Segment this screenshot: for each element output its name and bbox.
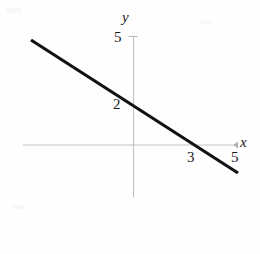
y-axis-label: y: [122, 10, 129, 25]
plotted-line: [31, 40, 238, 173]
x-intercept-label-3: 3: [187, 150, 195, 165]
x-axis-arrow-icon: [234, 142, 239, 149]
x-tick-label-5: 5: [231, 150, 239, 165]
coordinate-plot: [0, 0, 260, 254]
graph-figure: y x 5 2 3 5: [0, 0, 260, 254]
y-tick-label-5: 5: [114, 30, 122, 45]
x-axis-label: x: [240, 135, 247, 150]
y-intercept-label-2: 2: [113, 97, 121, 112]
